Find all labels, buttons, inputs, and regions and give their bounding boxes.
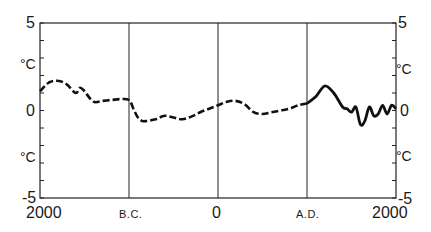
left-y-label-0: 0 (26, 103, 35, 119)
left-y-label-5: 5 (26, 15, 35, 31)
temperature-chart (0, 0, 431, 232)
x-label-2000-ad: 2000 (372, 205, 408, 221)
x-label-0: 0 (212, 205, 221, 221)
right-y-unit-lower: °C (396, 149, 412, 163)
x-label-bc: B.C. (119, 209, 142, 220)
left-y-unit-lower: °C (20, 150, 36, 164)
dashed-temperature-line (40, 81, 307, 122)
left-y-unit-upper: °C (20, 57, 36, 71)
x-label-2000-bc: 2000 (26, 205, 62, 221)
solid-temperature-line (307, 86, 396, 125)
right-y-unit-upper: °C (396, 62, 412, 76)
x-label-ad: A.D. (296, 209, 319, 220)
right-y-label-5: 5 (398, 15, 407, 31)
right-y-label-0: 0 (400, 103, 409, 119)
era-divider-lines (129, 23, 307, 198)
